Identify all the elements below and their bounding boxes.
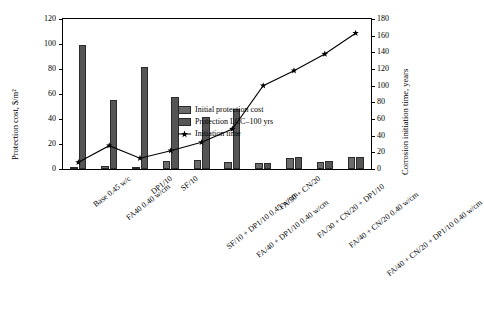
legend-line-marker-icon [178, 130, 191, 138]
legend-label: Initial protection cost [195, 104, 263, 115]
y2-tick-label: 180 [377, 15, 389, 23]
y-tick-label: 80 [32, 65, 56, 73]
legend-swatch-icon [178, 118, 191, 126]
y2-axis-title: Corrosion initiation time, years [400, 69, 410, 175]
y2-tick-label: 60 [377, 115, 385, 123]
legend-label: Initiation time [195, 128, 241, 139]
y2-tick-label: 100 [377, 82, 389, 90]
y2-tick-mark [372, 19, 375, 20]
legend-swatch-icon [178, 106, 191, 114]
y-tick-label: 120 [32, 15, 56, 23]
x-tick-label: Base 0.45 w/c [92, 174, 133, 209]
y2-tick-mark [372, 152, 375, 153]
data-point-marker [291, 67, 297, 73]
x-tick-label: SF/10 [179, 174, 200, 193]
data-point-marker [260, 82, 266, 88]
y2-tick-label: 20 [377, 148, 385, 156]
y-tick-label: 60 [32, 90, 56, 98]
y2-tick-mark [372, 36, 375, 37]
y2-tick-mark [372, 102, 375, 103]
y2-tick-mark [372, 86, 375, 87]
data-point-marker [75, 159, 81, 165]
plot-area [62, 18, 372, 170]
data-point-marker [168, 147, 174, 153]
chart-legend: Initial protection cost Protection LCC–1… [178, 104, 273, 140]
legend-item-initiation-time: Initiation time [178, 128, 273, 139]
y2-tick-label: 80 [377, 98, 385, 106]
y-tick-label: 0 [32, 165, 56, 173]
y2-tick-label: 140 [377, 48, 389, 56]
y-tick-label: 40 [32, 115, 56, 123]
y2-tick-label: 40 [377, 132, 385, 140]
data-point-marker [137, 155, 143, 161]
y2-tick-label: 0 [377, 165, 381, 173]
legend-label: Protection LCC–100 yrs [195, 116, 273, 127]
initiation-time-line [63, 19, 371, 169]
y-tick-label: 100 [32, 40, 56, 48]
y-axis-title: Protection cost, $/m² [10, 89, 20, 160]
y2-tick-label: 120 [377, 65, 389, 73]
y-tick-label: 20 [32, 140, 56, 148]
legend-item-initial-protection-cost: Initial protection cost [178, 104, 273, 115]
y2-tick-mark [372, 119, 375, 120]
y2-tick-label: 160 [377, 32, 389, 40]
y2-tick-mark [372, 136, 375, 137]
y2-tick-mark [372, 169, 375, 170]
y2-tick-mark [372, 52, 375, 53]
legend-item-protection-lcc: Protection LCC–100 yrs [178, 116, 273, 127]
y2-tick-mark [372, 69, 375, 70]
